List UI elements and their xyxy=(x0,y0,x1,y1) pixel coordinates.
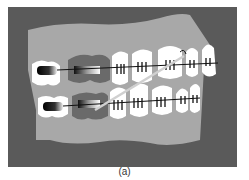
braces-diagram: (a) xyxy=(0,0,249,180)
upper-molar-tube-1 xyxy=(37,66,57,75)
lower-molar-tube-1 xyxy=(43,102,63,111)
upper-molar-tube-2 xyxy=(74,66,100,74)
figure-caption: (a) xyxy=(0,166,249,177)
braces-illustration xyxy=(0,0,249,180)
